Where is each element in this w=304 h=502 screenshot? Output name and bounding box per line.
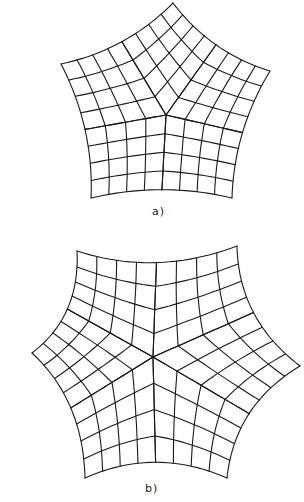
hexagon-mesh	[32, 246, 300, 478]
mesh-diagram	[0, 0, 304, 502]
panel-a-label: a)	[152, 205, 165, 218]
panel-b-label: b)	[145, 482, 158, 495]
pentagon-mesh	[61, 3, 270, 198]
